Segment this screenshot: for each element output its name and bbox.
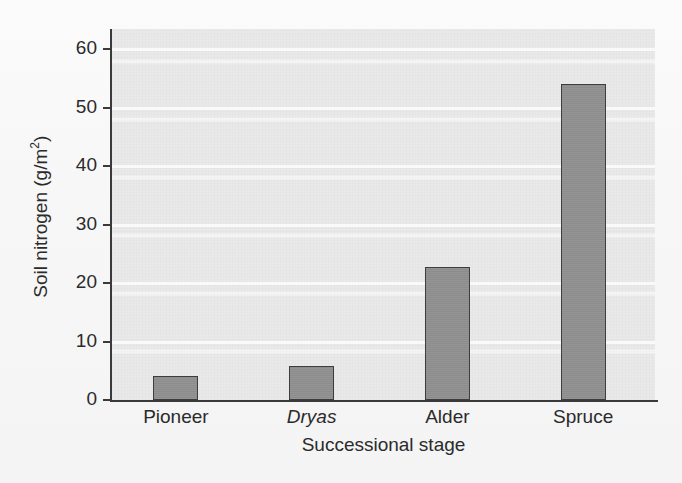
y-tick-mark	[103, 48, 111, 50]
y-axis-title: Soil nitrogen (g/m2)	[28, 37, 51, 397]
y-tick-label: 20	[55, 271, 97, 293]
bar-spruce[interactable]	[561, 84, 606, 400]
x-axis-line	[110, 400, 658, 402]
x-tick-label-spruce: Spruce	[513, 406, 653, 428]
x-tick-label-alder: Alder	[377, 406, 517, 428]
y-tick-mark	[103, 107, 111, 109]
y-axis-title-exponent: 2	[28, 142, 42, 149]
gridline	[112, 48, 655, 51]
x-axis-title: Successional stage	[112, 434, 655, 456]
y-tick-label: 30	[55, 213, 97, 235]
y-axis-title-close: )	[30, 136, 51, 142]
bar-pioneer[interactable]	[153, 376, 198, 400]
bar-dryas[interactable]	[289, 366, 334, 400]
y-axis-line	[110, 29, 112, 401]
x-tick-label-pioneer: Pioneer	[106, 406, 246, 428]
y-tick-mark	[103, 341, 111, 343]
y-tick-label: 50	[55, 96, 97, 118]
y-tick-label: 0	[55, 388, 97, 410]
y-tick-label: 40	[55, 154, 97, 176]
y-axis-title-base: Soil nitrogen (g/m	[30, 149, 51, 298]
bar-alder[interactable]	[425, 267, 470, 400]
y-tick-mark	[103, 165, 111, 167]
y-tick-mark	[103, 224, 111, 226]
y-tick-label: 60	[55, 37, 97, 59]
x-tick-label-dryas: Dryas	[242, 406, 382, 428]
y-tick-mark	[103, 399, 111, 401]
y-tick-mark	[103, 282, 111, 284]
y-tick-label: 10	[55, 330, 97, 352]
figure-bar-chart-soil-nitrogen: 6050403020100 PioneerDryasAlderSpruce Su…	[0, 0, 682, 483]
